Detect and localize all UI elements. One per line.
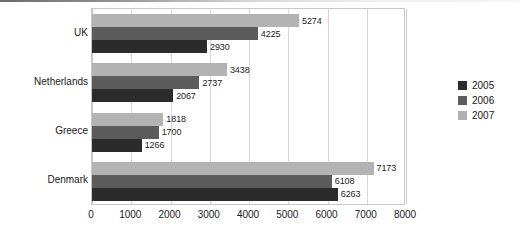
bar-row: 2067 bbox=[92, 89, 404, 102]
bar-value-greece-2006: 1700 bbox=[162, 127, 182, 137]
bar-row: 3438 bbox=[92, 63, 404, 76]
bar-netherlands-2005[interactable] bbox=[92, 89, 173, 102]
bar-greece-2005[interactable] bbox=[92, 139, 142, 152]
legend-swatch-2005 bbox=[458, 81, 467, 90]
legend-item-2006[interactable]: 2006 bbox=[458, 93, 516, 108]
bar-row: 2930 bbox=[92, 40, 404, 53]
bar-value-netherlands-2005: 2067 bbox=[176, 91, 196, 101]
bar-row: 2737 bbox=[92, 76, 404, 89]
x-tick-label-3000: 3000 bbox=[198, 209, 220, 220]
bar-value-denmark-2007: 7173 bbox=[377, 163, 397, 173]
bar-netherlands-2007[interactable] bbox=[92, 63, 227, 76]
x-tick-label-1000: 1000 bbox=[119, 209, 141, 220]
bar-value-uk-2007: 5274 bbox=[302, 16, 322, 26]
bar-row: 1818 bbox=[92, 113, 404, 126]
bar-denmark-2006[interactable] bbox=[92, 175, 332, 188]
bar-row: 7173 bbox=[92, 162, 404, 175]
bar-group-greece: 181817001266 bbox=[92, 113, 404, 152]
legend-label-2007: 2007 bbox=[472, 111, 494, 121]
legend-swatch-2006 bbox=[458, 96, 467, 105]
legend-item-2007[interactable]: 2007 bbox=[458, 108, 516, 123]
bar-denmark-2005[interactable] bbox=[92, 188, 338, 201]
bar-row: 1700 bbox=[92, 126, 404, 139]
bar-value-greece-2005: 1266 bbox=[145, 140, 165, 150]
category-label-uk: UK bbox=[0, 27, 88, 38]
bar-value-netherlands-2006: 2737 bbox=[202, 78, 222, 88]
gridline-8000 bbox=[406, 9, 407, 204]
bar-denmark-2007[interactable] bbox=[92, 162, 374, 175]
bar-value-uk-2005: 2930 bbox=[210, 42, 230, 52]
bar-value-netherlands-2007: 3438 bbox=[230, 65, 250, 75]
bar-greece-2007[interactable] bbox=[92, 113, 163, 126]
bar-row: 1266 bbox=[92, 139, 404, 152]
category-label-denmark: Denmark bbox=[0, 174, 88, 185]
bar-row: 4225 bbox=[92, 27, 404, 40]
bar-uk-2007[interactable] bbox=[92, 14, 299, 27]
x-tick-label-4000: 4000 bbox=[237, 209, 259, 220]
bar-row: 6263 bbox=[92, 188, 404, 201]
bar-row: 5274 bbox=[92, 14, 404, 27]
bar-value-denmark-2005: 6263 bbox=[341, 189, 361, 199]
legend-label-2005: 2005 bbox=[472, 81, 494, 91]
category-label-netherlands: Netherlands bbox=[0, 76, 88, 87]
bar-group-netherlands: 343827372067 bbox=[92, 63, 404, 102]
bar-netherlands-2006[interactable] bbox=[92, 76, 199, 89]
x-tick-label-2000: 2000 bbox=[158, 209, 180, 220]
bar-group-uk: 527442252930 bbox=[92, 14, 404, 53]
plot-area: 5274422529303438273720671818170012667173… bbox=[91, 8, 405, 205]
bar-group-denmark: 717361086263 bbox=[92, 162, 404, 201]
category-axis: UKNetherlandsGreeceDenmark bbox=[0, 8, 88, 205]
chart-legend: 200520062007 bbox=[458, 78, 516, 123]
bar-row: 6108 bbox=[92, 175, 404, 188]
x-tick-label-5000: 5000 bbox=[276, 209, 298, 220]
x-tick-label-7000: 7000 bbox=[355, 209, 377, 220]
x-tick-label-0: 0 bbox=[88, 209, 94, 220]
bar-value-uk-2006: 4225 bbox=[261, 29, 281, 39]
bar-value-denmark-2006: 6108 bbox=[335, 176, 355, 186]
x-tick-label-8000: 8000 bbox=[394, 209, 416, 220]
bar-uk-2006[interactable] bbox=[92, 27, 258, 40]
legend-item-2005[interactable]: 2005 bbox=[458, 78, 516, 93]
legend-label-2006: 2006 bbox=[472, 96, 494, 106]
category-label-greece: Greece bbox=[0, 125, 88, 136]
bar-uk-2005[interactable] bbox=[92, 40, 207, 53]
bar-value-greece-2007: 1818 bbox=[166, 114, 186, 124]
bar-chart: UKNetherlandsGreeceDenmark 5274422529303… bbox=[0, 0, 520, 248]
x-tick-label-6000: 6000 bbox=[315, 209, 337, 220]
bar-greece-2006[interactable] bbox=[92, 126, 159, 139]
x-axis: 010002000300040005000600070008000 bbox=[91, 206, 405, 224]
legend-swatch-2007 bbox=[458, 111, 467, 120]
